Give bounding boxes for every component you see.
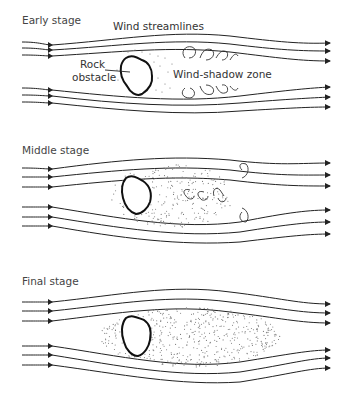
obstacle-label-line1: Rock bbox=[80, 58, 106, 70]
stage-label-early: Early stage bbox=[22, 14, 81, 26]
streamlines-bottom bbox=[22, 87, 330, 113]
streamlines-top bbox=[22, 34, 330, 61]
rock-obstacle-final bbox=[122, 316, 151, 356]
streamlines-bottom-middle bbox=[22, 204, 330, 243]
streamlines-top-final bbox=[22, 289, 330, 324]
panel-early-stage: Early stage Wind streamlines bbox=[22, 14, 330, 113]
obstacle-label-line2: obstacle bbox=[72, 71, 116, 83]
streamlines-top-middle bbox=[22, 158, 330, 190]
panel-final-stage: Final stage bbox=[22, 275, 330, 383]
stage-label-final: Final stage bbox=[22, 275, 79, 287]
wind-shadow-diagram: Early stage Wind streamlines bbox=[0, 0, 347, 397]
streamlines-label: Wind streamlines bbox=[113, 20, 204, 32]
rock-obstacle-early bbox=[121, 56, 152, 95]
eddies-middle bbox=[184, 163, 248, 222]
rock-obstacle-middle bbox=[122, 176, 151, 214]
wind-shadow-zone-label: Wind-shadow zone bbox=[173, 68, 272, 80]
stage-label-middle: Middle stage bbox=[22, 144, 89, 156]
streamlines-bottom-final bbox=[22, 343, 330, 383]
panel-middle-stage: Middle stage bbox=[22, 144, 330, 243]
